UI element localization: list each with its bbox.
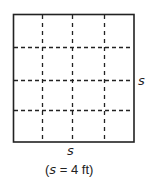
bottom-side-label: s — [67, 144, 74, 157]
side-length-caption: (s = 4 ft) — [45, 163, 93, 176]
square-outline — [14, 15, 135, 143]
square-grid-diagram — [0, 0, 150, 186]
right-side-label: s — [138, 74, 145, 87]
caption-value: = 4 ft) — [56, 162, 93, 177]
